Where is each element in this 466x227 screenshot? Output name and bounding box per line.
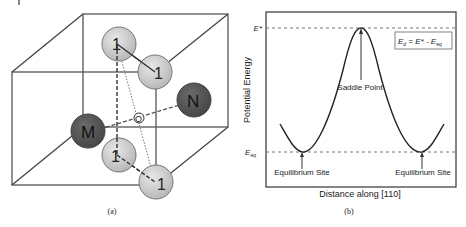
equilibrium-site-right-label: Equilibrium Site [395, 168, 451, 177]
tick-e-star: E* [254, 24, 263, 33]
x-axis-label: Distance along [110] [319, 189, 400, 199]
label-M: M [81, 123, 95, 142]
panel-b-chart: Saddle Point Equilibrium Site Equilibriu… [242, 12, 456, 199]
atom-site1-bottom-front [139, 165, 173, 199]
label-site1-top-front: 1 [154, 65, 163, 82]
tick-e-eq: Eeq [245, 148, 256, 158]
label-site1-bottom-back: 1 [111, 148, 120, 165]
label-O: O [135, 114, 142, 124]
label-N: N [187, 92, 199, 111]
y-axis-label: Potential Energy [242, 56, 252, 123]
panel-a-atoms: 1 1 1 1 M N O [71, 27, 211, 199]
equilibrium-site-left-label: Equilibrium Site [274, 168, 330, 177]
saddle-point-label: Saddle Point [337, 83, 383, 92]
caption-a: (a) [108, 207, 117, 216]
figure: 1 1 1 1 M N O (a) Saddle Point Equilibri… [0, 0, 466, 227]
label-site1-bottom-front: 1 [157, 176, 166, 193]
caption-b: (b) [344, 207, 354, 216]
cube-edge [12, 14, 83, 72]
label-site1-top-back: 1 [112, 36, 121, 53]
